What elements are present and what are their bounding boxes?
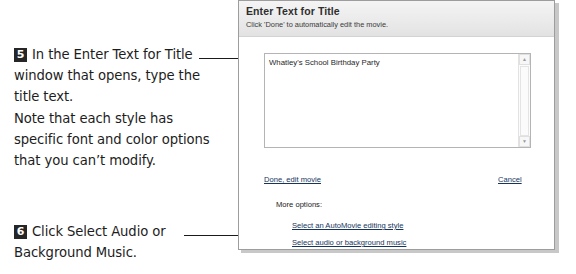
done-edit-movie-link[interactable]: Done, edit movie: [264, 175, 321, 184]
enter-text-for-title-panel: Enter Text for Title Click 'Done' to aut…: [238, 0, 555, 250]
title-text-value[interactable]: Whatley's School Birthday Party: [269, 57, 514, 68]
panel-subtitle: Click 'Done' to automatically edit the m…: [246, 19, 554, 30]
instruction-step-5: 5In the Enter Text for Title window that…: [14, 44, 226, 107]
step-text-5: In the Enter Text for Title window that …: [14, 47, 200, 104]
scrollbar-thumb[interactable]: [520, 66, 529, 136]
cancel-link[interactable]: Cancel: [498, 175, 522, 184]
step-number-badge-6: 6: [14, 225, 27, 239]
textarea-scrollbar[interactable]: ▲ ▼: [518, 54, 530, 147]
instructions-column: 5In the Enter Text for Title window that…: [0, 0, 232, 274]
scroll-up-arrow-icon[interactable]: ▲: [519, 54, 530, 65]
select-automovie-editing-style-link[interactable]: Select an AutoMovie editing style: [292, 221, 403, 230]
panel-header: Enter Text for Title Click 'Done' to aut…: [239, 1, 554, 37]
select-audio-or-background-music-link[interactable]: Select audio or background music: [292, 238, 406, 247]
title-text-input[interactable]: Whatley's School Birthday Party ▲ ▼: [264, 53, 531, 148]
panel-title: Enter Text for Title: [246, 5, 554, 18]
scroll-down-arrow-icon[interactable]: ▼: [519, 136, 530, 147]
more-options-label: More options:: [276, 200, 322, 209]
step-number-badge-5: 5: [14, 48, 27, 62]
instruction-step-6: 6Click Select Audio or Background Music.: [14, 221, 226, 263]
instruction-note: Note that each style has specific font a…: [14, 108, 226, 171]
step-text-6: Click Select Audio or Background Music.: [14, 224, 166, 260]
